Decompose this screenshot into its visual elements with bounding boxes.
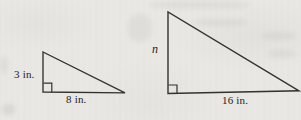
large-triangle-height-label: n <box>152 43 158 55</box>
triangles-diagram <box>0 0 301 120</box>
small-triangle-height-label: 3 in. <box>14 68 35 80</box>
textbook-figure: 3 in. 8 in. n 16 in. <box>0 0 301 120</box>
small-triangle-outline <box>43 52 125 93</box>
small-triangle-right-angle-marker <box>44 83 52 92</box>
large-triangle-base-label: 16 in. <box>222 94 248 106</box>
small-triangle-base-label: 8 in. <box>66 93 87 105</box>
large-triangle-outline <box>168 12 299 94</box>
large-triangle-right-angle-marker <box>169 85 178 93</box>
